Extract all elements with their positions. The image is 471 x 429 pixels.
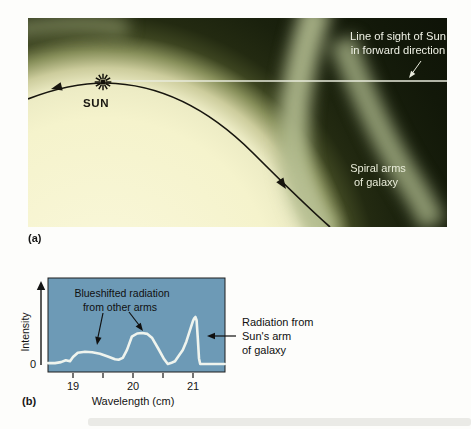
spiral-arms-label-line1: Spiral arms: [350, 162, 406, 174]
x-axis-label: Wavelength (cm): [92, 395, 175, 407]
textbook-figure-page: Line of sight of Sun in forward directio…: [0, 0, 471, 429]
galaxy-panel: Line of sight of Sun in forward directio…: [28, 18, 447, 227]
y-axis-arrowhead-icon: [37, 281, 45, 290]
sun-label: SUN: [83, 97, 109, 109]
x-tick-label-19: 19: [67, 380, 79, 392]
panel-a-tag: (a): [28, 232, 41, 244]
x-tick-label-20: 20: [127, 380, 139, 392]
line-of-sight-label-line1: Line of sight of Sun: [350, 30, 446, 42]
spiral-arms-label-line2: of galaxy: [354, 176, 399, 188]
panel-b-tag: (b): [22, 395, 36, 407]
page-edge-shadow: [88, 418, 471, 426]
blueshifted-annotation-line2: from other arms: [83, 301, 157, 313]
line-of-sight-label-line2: in forward direction: [351, 44, 446, 56]
y-axis-label: Intensity: [20, 312, 31, 352]
sun-arm-annotation-line3: of galaxy: [242, 344, 287, 356]
sun-arm-annotation-line1: Radiation from: [242, 316, 314, 328]
spiral-arm-band-topleft: [28, 23, 128, 30]
sun-arm-annotation-line2: Sun's arm: [242, 330, 291, 342]
spectrum-panel: 19 20 21 0 Intensity Wavelength (cm) (b)…: [20, 275, 330, 410]
x-tick-label-21: 21: [187, 380, 199, 392]
blueshifted-annotation-line1: Blueshifted radiation: [74, 287, 169, 299]
y-origin-label: 0: [30, 358, 36, 370]
